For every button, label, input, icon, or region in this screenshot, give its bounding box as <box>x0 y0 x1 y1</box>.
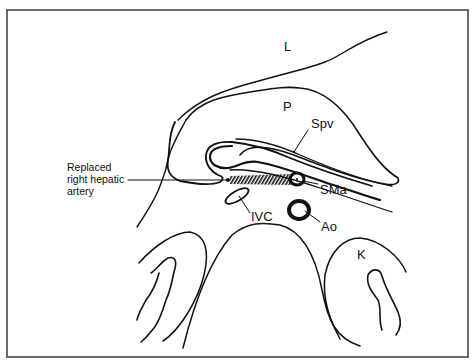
hatched-artery <box>230 174 292 185</box>
rha-label-line1: Replaced <box>67 161 124 173</box>
ivc-leader <box>239 196 250 213</box>
left-kidney-pelvis <box>137 257 176 342</box>
label-replaced-right-hepatic-artery: Replaced right hepatic artery <box>67 161 124 197</box>
label-liver: L <box>284 40 291 53</box>
label-aorta: Ao <box>321 220 337 233</box>
liver-left-edge <box>137 120 186 227</box>
label-pancreas: P <box>283 100 292 113</box>
label-ivc: IVC <box>251 210 273 223</box>
spv-leader <box>294 130 308 152</box>
pancreas-outline <box>186 87 398 184</box>
right-kidney-pelvis <box>368 270 401 335</box>
left-kidney-outer <box>139 232 206 341</box>
vertebra-outline <box>183 223 360 348</box>
rha-label-line3: artery <box>67 185 124 197</box>
aorta-vessel <box>289 201 309 219</box>
label-kidney: K <box>357 248 366 261</box>
ivc-vessel <box>223 185 251 207</box>
label-splenic-vein: Spv <box>311 117 333 130</box>
label-sma: SMa <box>320 183 347 196</box>
rha-label-line2: right hepatic <box>67 173 124 185</box>
